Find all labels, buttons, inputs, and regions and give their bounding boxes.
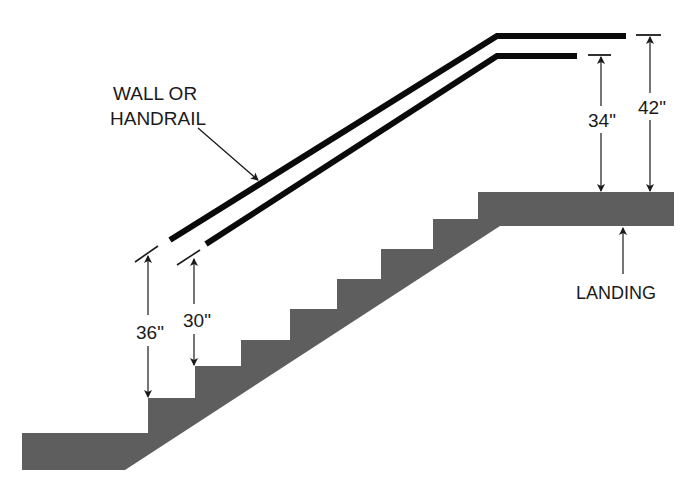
dim-42-label: 42": [638, 97, 666, 118]
dim-30-tick: [177, 250, 200, 265]
dim-36-tick: [135, 246, 158, 262]
stair-diagram: WALL OR HANDRAIL 36" 30" 34" 42" LANDING: [0, 0, 699, 496]
dim-30-label: 30": [183, 310, 211, 331]
rail-label-line2: HANDRAIL: [110, 108, 206, 129]
dim-34-label: 34": [588, 110, 616, 131]
rail-label-line1: WALL OR: [113, 83, 197, 104]
dim-36-label: 36": [136, 322, 164, 343]
stair-body: [22, 192, 674, 470]
rail-leader-arrow: [198, 128, 258, 180]
landing-label: LANDING: [576, 283, 656, 303]
